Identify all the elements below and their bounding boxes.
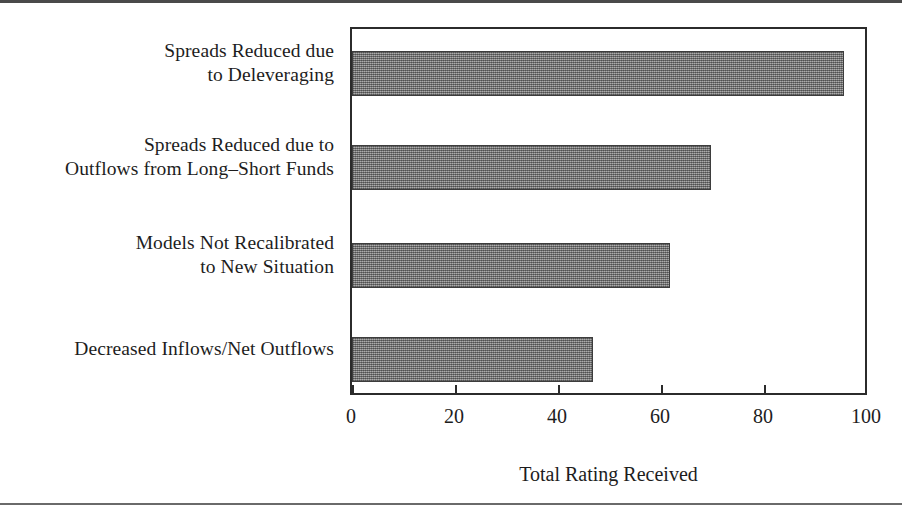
category-label-2: Models Not Recalibrated to New Situation bbox=[0, 231, 334, 279]
category-label-3-line1: Decreased Inflows/Net Outflows bbox=[0, 337, 334, 361]
tick-mark-4 bbox=[764, 385, 766, 394]
x-tick-label-2: 40 bbox=[522, 404, 592, 428]
tick-mark-0 bbox=[352, 385, 354, 394]
tick-mark-3 bbox=[661, 385, 663, 394]
x-tick-label-4: 80 bbox=[728, 404, 798, 428]
page-rule-top bbox=[0, 0, 902, 3]
category-label-1-line2: Outflows from Long–Short Funds bbox=[0, 157, 334, 181]
x-tick-label-0: 0 bbox=[316, 404, 386, 428]
bar-1 bbox=[352, 145, 711, 190]
category-label-0-line1: Spreads Reduced due bbox=[0, 39, 334, 63]
tick-mark-2 bbox=[558, 385, 560, 394]
x-tick-label-1: 20 bbox=[419, 404, 489, 428]
bar-3 bbox=[352, 337, 593, 382]
plot-area bbox=[350, 27, 867, 395]
category-label-0: Spreads Reduced due to Deleveraging bbox=[0, 39, 334, 87]
figure-container: Spreads Reduced due to Deleveraging Spre… bbox=[0, 0, 902, 512]
tick-mark-1 bbox=[455, 385, 457, 394]
category-label-1-line1: Spreads Reduced due to bbox=[0, 133, 334, 157]
category-label-1: Spreads Reduced due to Outflows from Lon… bbox=[0, 133, 334, 181]
x-axis-title: Total Rating Received bbox=[350, 462, 867, 486]
category-label-2-line2: to New Situation bbox=[0, 255, 334, 279]
category-label-0-line2: to Deleveraging bbox=[0, 63, 334, 87]
page-rule-bottom bbox=[0, 503, 902, 505]
category-label-column: Spreads Reduced due to Deleveraging Spre… bbox=[0, 27, 342, 395]
category-label-3: Decreased Inflows/Net Outflows bbox=[0, 337, 334, 361]
bar-2 bbox=[352, 243, 670, 288]
bar-0 bbox=[352, 51, 844, 96]
x-tick-label-5: 100 bbox=[831, 404, 901, 428]
x-tick-label-3: 60 bbox=[625, 404, 695, 428]
category-label-2-line1: Models Not Recalibrated bbox=[0, 231, 334, 255]
tick-mark-5 bbox=[865, 385, 867, 394]
